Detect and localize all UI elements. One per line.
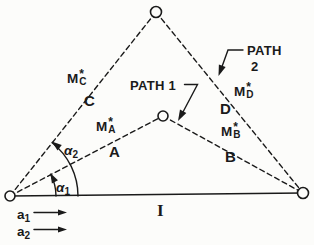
a1-arrowhead-icon	[58, 209, 67, 215]
marker-mb-scripts: * B	[233, 125, 240, 140]
alpha1-subscript: 1	[64, 186, 70, 197]
alpha2-label: α2	[64, 142, 78, 160]
region-label-d: D	[220, 101, 231, 116]
marker-mc: M * C	[67, 72, 86, 87]
marker-md: M * D	[234, 85, 253, 100]
baseline-solid	[10, 193, 303, 196]
marker-md-sub: D	[246, 90, 253, 100]
marker-ma: M * A	[96, 120, 115, 135]
a1-symbol: a	[17, 207, 25, 222]
vertex-left-node	[5, 191, 15, 201]
alpha2-subscript: 2	[72, 149, 78, 160]
path2-pointer-line	[222, 50, 244, 68]
vertex-mid-node	[158, 111, 168, 121]
marker-md-scripts: * D	[246, 85, 253, 100]
edge-left-to-mid-dashed-path1	[10, 116, 163, 196]
marker-mc-scripts: * C	[79, 72, 86, 87]
vertex-right-node	[298, 188, 309, 199]
path1-label: PATH 1	[130, 79, 176, 92]
path2-label-top: PATH	[247, 44, 282, 57]
region-label-b: B	[225, 149, 236, 164]
baseline-label: I	[157, 202, 164, 219]
marker-md-base: M	[234, 85, 245, 99]
a2-subscript: 2	[25, 230, 31, 241]
marker-ma-sub: A	[108, 125, 115, 135]
a1-vector-label: a1	[17, 206, 30, 224]
path2-label-bottom: 2	[251, 60, 259, 73]
a2-symbol: a	[17, 224, 25, 239]
marker-mb-base: M	[221, 125, 232, 139]
region-label-c: C	[84, 93, 95, 108]
region-label-a: A	[109, 144, 120, 159]
marker-ma-scripts: * A	[108, 120, 115, 135]
path1-arrowhead-icon	[175, 110, 187, 123]
marker-mc-sub: C	[79, 77, 86, 87]
vertex-top-node	[151, 7, 162, 18]
marker-mb-sub: B	[233, 130, 240, 140]
a2-vector-label: a2	[17, 223, 30, 241]
alpha2-arrowhead-icon	[50, 139, 62, 151]
a2-arrowhead-icon	[58, 226, 67, 232]
reaction-path-diagram: M * C M * A M * D M * B C A D B PATH 1 P…	[0, 0, 314, 245]
marker-mb: M * B	[221, 125, 240, 140]
marker-ma-base: M	[96, 120, 107, 134]
alpha1-label: α1	[56, 179, 70, 197]
edge-left-to-top-dashed	[10, 12, 156, 196]
path2-arrowhead-icon	[215, 64, 226, 77]
marker-mc-base: M	[67, 72, 78, 86]
path1-pointer-line	[183, 85, 198, 113]
